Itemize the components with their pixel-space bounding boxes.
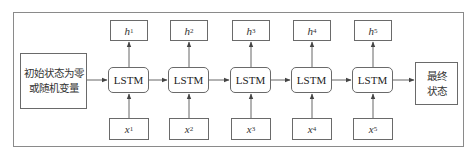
final-state-line-1: 最终 <box>427 69 447 84</box>
input-x5-box: x5 <box>353 118 393 140</box>
output-h2-box: h2 <box>170 20 208 41</box>
input-subscript: 2 <box>190 125 194 133</box>
final-state-box: 最终 状态 <box>415 62 458 105</box>
output-subscript: 3 <box>252 27 256 35</box>
input-x3-box: x3 <box>231 118 271 140</box>
output-h3-box: h3 <box>232 20 270 41</box>
initial-state-box: 初始状态为零 或随机变量 <box>20 53 87 109</box>
lstm-cell-2: LSTM <box>168 67 209 93</box>
final-state-line-2: 状态 <box>427 84 447 99</box>
input-subscript: 1 <box>130 125 134 133</box>
lstm-cell-5: LSTM <box>352 67 393 93</box>
lstm-label: LSTM <box>358 74 387 86</box>
input-subscript: 5 <box>374 125 378 133</box>
lstm-cell-4: LSTM <box>291 67 332 93</box>
output-subscript: 2 <box>190 27 194 35</box>
output-h1-box: h1 <box>110 20 148 41</box>
input-subscript: 3 <box>252 125 256 133</box>
output-subscript: 1 <box>130 27 134 35</box>
lstm-cell-3: LSTM <box>230 67 271 93</box>
input-x1-box: x1 <box>109 118 149 140</box>
input-x2-box: x2 <box>169 118 209 140</box>
lstm-cell-1: LSTM <box>108 67 149 93</box>
lstm-label: LSTM <box>114 74 143 86</box>
initial-state-line-1: 初始状态为零 <box>24 66 84 81</box>
output-h4-box: h4 <box>293 20 331 41</box>
output-subscript: 5 <box>374 27 378 35</box>
lstm-label: LSTM <box>236 74 265 86</box>
input-x4-box: x4 <box>292 118 332 140</box>
input-subscript: 4 <box>313 125 317 133</box>
output-subscript: 4 <box>313 27 317 35</box>
initial-state-line-2: 或随机变量 <box>29 81 79 96</box>
lstm-label: LSTM <box>174 74 203 86</box>
lstm-label: LSTM <box>297 74 326 86</box>
output-h5-box: h5 <box>354 20 392 41</box>
